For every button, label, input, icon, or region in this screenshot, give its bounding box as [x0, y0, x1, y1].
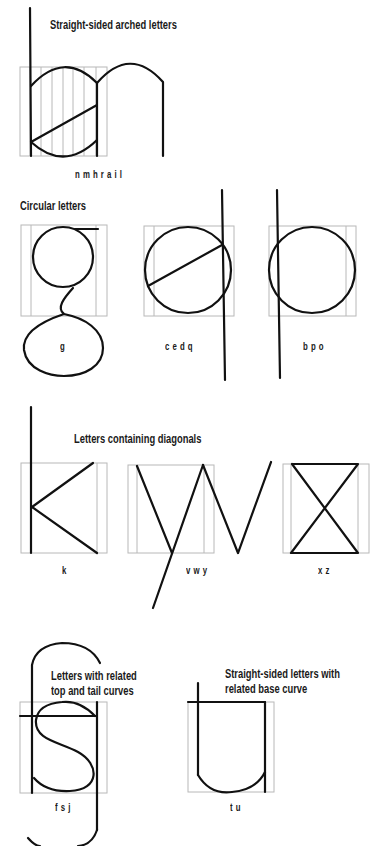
bpo-label: bpo — [303, 341, 327, 353]
vwy-figure — [128, 462, 271, 608]
diagonal-letters-title: Letters containing diagonals — [74, 432, 201, 446]
tu-label: tu — [230, 802, 244, 814]
letter-construction-diagram — [0, 0, 377, 846]
xz-label: xz — [318, 565, 332, 577]
xz-figure — [283, 464, 369, 553]
vwy-label: vwy — [186, 565, 210, 577]
tail-curves-title-line1: Letters with related — [51, 669, 137, 683]
arched-letters-title: Straight-sided arched letters — [50, 18, 177, 32]
cedq-label: cedq — [165, 341, 196, 353]
tu-figure — [188, 683, 274, 792]
circular-letters-title: Circular letters — [20, 199, 86, 213]
k-figure — [21, 407, 107, 553]
k-label: k — [62, 565, 69, 577]
base-curve-title-line2: related base curve — [225, 682, 307, 696]
base-curve-title-line1: Straight-sided letters with — [225, 667, 340, 681]
fsj-label: fsj — [55, 802, 73, 814]
g-figure — [21, 225, 107, 376]
arched-letters-label: nmhrail — [75, 169, 125, 181]
g-label: g — [60, 341, 68, 353]
tail-curves-title-line2: top and tail curves — [51, 684, 134, 698]
